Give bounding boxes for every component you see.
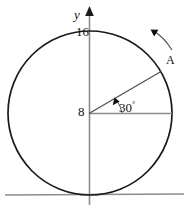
y-axis-arrowhead-icon	[85, 6, 94, 16]
circle-diagram-figure: y 16 8 A 30°	[0, 0, 189, 209]
y-axis-label: y	[74, 8, 80, 21]
center-value-label: 8	[78, 105, 85, 118]
angle-value: 30	[119, 100, 132, 115]
rotation-direction-arc	[156, 33, 172, 51]
angle-label: 30°	[119, 101, 135, 114]
diagram-canvas	[0, 0, 189, 209]
point-a-label: A	[166, 54, 175, 66]
top-value-label: 16	[76, 25, 89, 38]
degree-symbol: °	[132, 100, 135, 109]
